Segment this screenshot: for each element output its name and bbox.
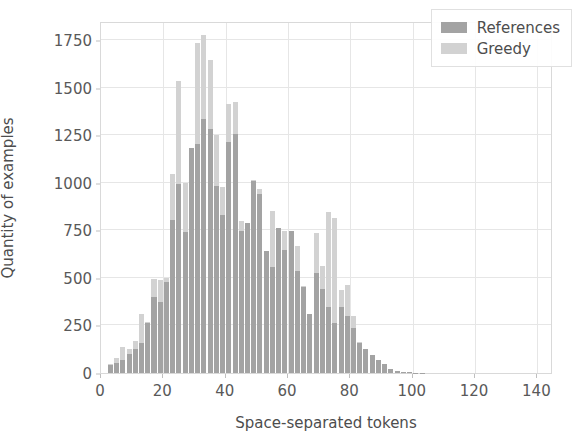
histogram-bar (108, 365, 113, 373)
x-tick-label: 140 (511, 382, 561, 400)
x-tick-label: 60 (262, 382, 312, 400)
histogram-bar (345, 316, 350, 373)
histogram-bar (220, 215, 225, 373)
histogram-bar (195, 144, 200, 373)
histogram-bar (114, 363, 119, 373)
x-axis-title: Space-separated tokens (100, 414, 552, 432)
y-tick-label: 750 (34, 222, 92, 240)
histogram-bar (176, 184, 181, 373)
histogram-bar (376, 360, 381, 373)
histogram-bar (158, 302, 163, 373)
histogram-bar (407, 372, 412, 373)
x-tick-mark (100, 374, 101, 378)
histogram-bar (226, 142, 231, 373)
histogram-bar (245, 223, 250, 373)
histogram-bar (201, 119, 206, 373)
legend-label-references: References (477, 19, 560, 37)
histogram-bar (233, 134, 238, 373)
x-tick-label: 0 (75, 382, 125, 400)
x-tick-mark (225, 374, 226, 378)
histogram-bar (183, 232, 188, 373)
y-tick-label: 250 (34, 317, 92, 335)
x-tick-label: 120 (449, 382, 499, 400)
x-tick-label: 20 (137, 382, 187, 400)
histogram-bar (351, 328, 356, 373)
histogram-bar (151, 297, 156, 373)
histogram-bar (133, 349, 138, 373)
x-tick-mark (412, 374, 413, 378)
y-tick-label: 500 (34, 270, 92, 288)
histogram-bar (170, 220, 175, 373)
histogram-bar (276, 228, 281, 373)
histogram-bar (295, 271, 300, 373)
histogram-bar (370, 355, 375, 373)
histogram-bar (320, 289, 325, 373)
histogram-bar (120, 360, 125, 373)
histogram-bar (382, 364, 387, 373)
legend-swatch-greedy (441, 43, 467, 54)
histogram-bar (332, 323, 337, 373)
y-tick-label: 1500 (34, 80, 92, 98)
y-tick-label: 0 (34, 365, 92, 383)
y-tick-label: 1250 (34, 127, 92, 145)
histogram-bar (395, 371, 400, 373)
x-tick-mark (349, 374, 350, 378)
chart-legend: References Greedy (431, 9, 572, 67)
histogram-bar (257, 194, 262, 373)
histogram-bar (145, 323, 150, 373)
x-tick-label: 100 (387, 382, 437, 400)
y-axis-title: Quantity of examples (0, 117, 17, 278)
histogram-bar (239, 231, 244, 373)
bars-layer (101, 23, 551, 373)
histogram-bar (388, 369, 393, 373)
histogram-bar (264, 251, 269, 373)
histogram-bar (339, 307, 344, 373)
histogram-bar (139, 343, 144, 373)
histogram-bar (363, 349, 368, 373)
histogram-bar (307, 314, 312, 373)
x-tick-mark (474, 374, 475, 378)
x-tick-label: 80 (324, 382, 374, 400)
plot-area (100, 22, 552, 374)
histogram-bar (208, 129, 213, 373)
histogram-bar (326, 307, 331, 373)
histogram-bar (127, 354, 132, 373)
histogram-bar (301, 287, 306, 373)
histogram-bar (270, 267, 275, 373)
y-tick-label: 1000 (34, 175, 92, 193)
histogram-bar (282, 250, 287, 373)
x-tick-mark (536, 374, 537, 378)
histogram-bar (357, 343, 362, 373)
legend-item-greedy: Greedy (441, 38, 560, 59)
histogram-bar (289, 231, 294, 373)
x-tick-label: 40 (200, 382, 250, 400)
histogram-bar (214, 186, 219, 373)
legend-swatch-references (441, 22, 467, 33)
histogram-bar (189, 148, 194, 373)
legend-label-greedy: Greedy (477, 40, 531, 58)
histogram-bar (251, 181, 256, 373)
histogram-bar (164, 282, 169, 373)
histogram-figure: Quantity of examples 0250500750100012501… (0, 0, 582, 443)
histogram-bar (401, 372, 406, 373)
x-tick-mark (162, 374, 163, 378)
x-tick-mark (287, 374, 288, 378)
histogram-bar (314, 273, 319, 373)
y-tick-label: 1750 (34, 32, 92, 50)
legend-item-references: References (441, 17, 560, 38)
